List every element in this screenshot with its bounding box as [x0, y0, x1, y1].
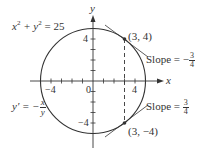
- y-axis-label: y: [90, 3, 95, 14]
- tick-label-x4: 4: [132, 85, 137, 95]
- point-3-4: [123, 37, 127, 41]
- tick-label-xneg4: −4: [45, 85, 56, 95]
- slope-label-top: Slope = −34: [146, 52, 195, 69]
- derivative-equation: y′ = −xy: [12, 98, 46, 117]
- point-label-bottom: (3, −4): [128, 126, 158, 137]
- x-axis-arrow-icon: [157, 79, 164, 84]
- tick-label-y4: 4: [83, 34, 88, 44]
- x-axis-label: x: [166, 75, 171, 86]
- slope-label-bottom: Slope = 34: [146, 99, 189, 116]
- y-axis-arrow-icon: [91, 15, 96, 22]
- point-3-neg4: [123, 121, 127, 125]
- point-label-top: (3, 4): [128, 31, 152, 42]
- tick-label-yneg4: −4: [78, 118, 89, 128]
- tick-label-origin: 0: [86, 85, 91, 95]
- circle-equation: x2 + y2 = 25: [12, 20, 64, 32]
